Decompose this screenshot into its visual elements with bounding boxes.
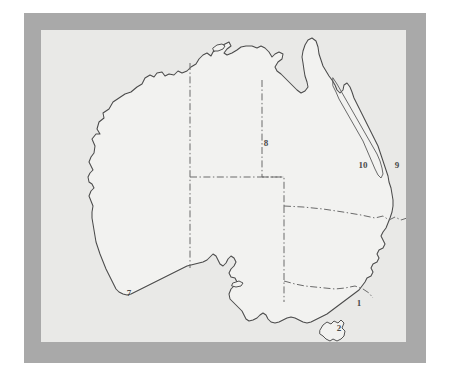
region-label-8: 8 [264, 139, 269, 148]
map-panel: 1 2 7 8 9 10 11 [41, 30, 406, 342]
region-label-2: 2 [337, 324, 342, 333]
australia-mainland-path [88, 38, 393, 323]
region-label-7: 7 [127, 289, 132, 298]
region-label-1: 1 [357, 299, 362, 308]
region-label-10: 10 [359, 161, 368, 170]
kangaroo-island-path [232, 281, 243, 287]
region-label-9: 9 [395, 161, 400, 170]
australia-map-svg [41, 30, 406, 342]
map-figure: 1 2 7 8 9 10 11 [0, 0, 449, 374]
